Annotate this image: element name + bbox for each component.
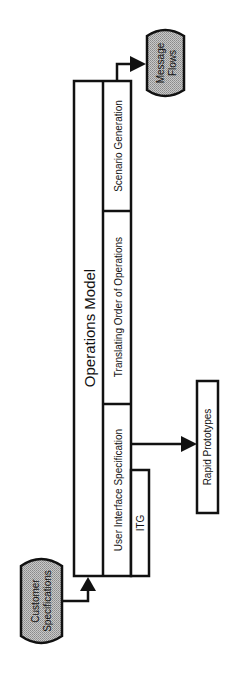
rapid-prototypes-label: Rapid Prototypes [202, 409, 213, 486]
operations-model-diagram: Operations Model Scenario Generation Tra… [0, 0, 236, 696]
customer-specifications-terminal: Customer Specifications [21, 559, 62, 643]
arrowhead-icon [130, 56, 146, 72]
connector-customer-to-model [62, 577, 96, 601]
section-user-interface-spec: User Interface Specification [113, 429, 124, 551]
section-scenario-generation: Scenario Generation [113, 100, 124, 192]
itg-block: ITG [131, 470, 149, 576]
section-translating-order: Translating Order of Operations [113, 237, 124, 377]
arrowhead-icon [80, 577, 96, 591]
connector-model-to-message-flows [117, 56, 146, 81]
section-label: Translating Order of Operations [113, 237, 124, 377]
message-flows-terminal: Message Flows [147, 30, 184, 96]
terminal-label-line1: Message [155, 42, 166, 83]
terminal-label-line1: Customer [30, 579, 41, 623]
itg-label: ITG [135, 514, 146, 531]
terminal-label-line2: Flows [167, 50, 178, 76]
rapid-prototypes-box: Rapid Prototypes [197, 381, 218, 513]
connector-ui-spec-to-rapid-prototypes [131, 436, 197, 452]
section-label: User Interface Specification [113, 429, 124, 551]
section-label: Scenario Generation [113, 100, 124, 192]
operations-model-title: Operations Model [81, 269, 98, 387]
arrowhead-icon [181, 436, 197, 452]
terminal-label-line2: Specifications [42, 570, 53, 632]
